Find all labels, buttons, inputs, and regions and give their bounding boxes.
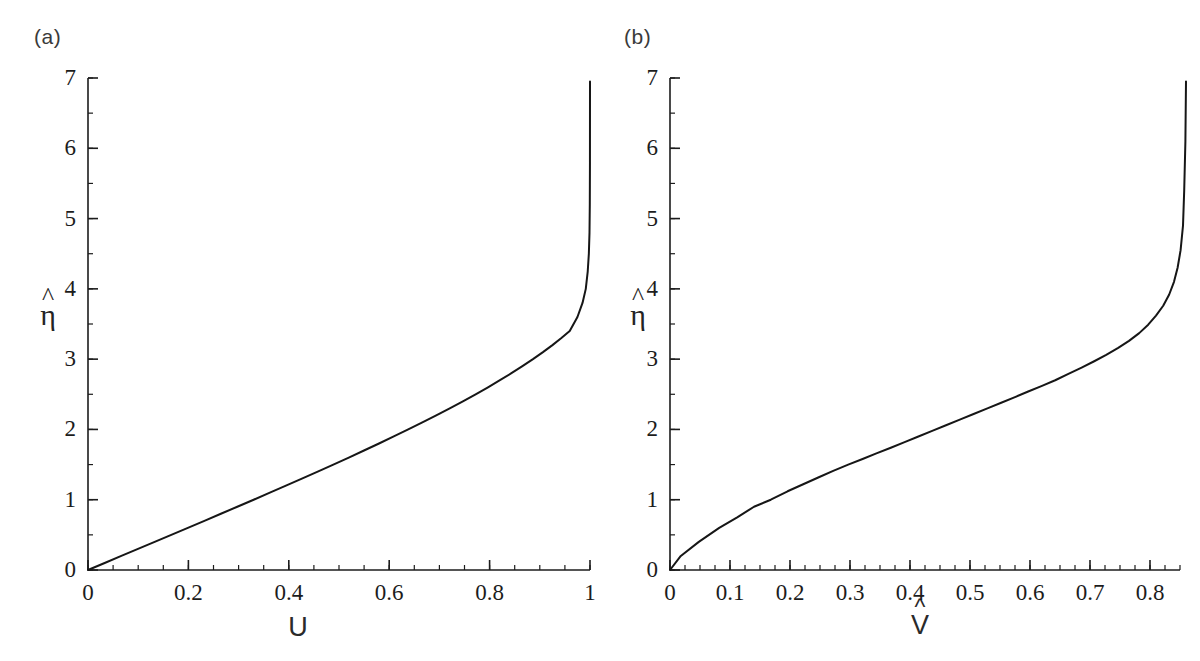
panel-b-x-tick-label: 0: [664, 580, 676, 606]
panel-b-y-tick-label: 1: [624, 487, 658, 513]
panel-a-plot: [0, 0, 610, 661]
panel-b-x-tick-label: 0.6: [1016, 580, 1045, 606]
panel-b-plot: [610, 0, 1200, 661]
panel-b-y-tick-label: 7: [624, 65, 658, 91]
panel-b-y-tick-label: 2: [624, 416, 658, 442]
panel-b-y-tick-label: 6: [624, 135, 658, 161]
panel-b-y-tick-label: 3: [624, 346, 658, 372]
panel-b-y-tick-label: 5: [624, 206, 658, 232]
figure-container: (a) ^ η U 00.20.40.60.8101234567 (b) ^ η…: [0, 0, 1200, 661]
panel-b: (b) ^ η ^ V 00.10.20.30.40.50.60.70.8012…: [610, 0, 1200, 661]
panel-b-x-tick-label: 0.5: [956, 580, 985, 606]
panel-a-y-tick-label: 5: [42, 206, 76, 232]
panel-b-x-tick-label: 0.2: [776, 580, 805, 606]
panel-a-y-tick-label: 1: [42, 487, 76, 513]
panel-a-x-tick-label: 0.2: [174, 580, 203, 606]
panel-b-x-tick-label: 0.4: [896, 580, 925, 606]
panel-a: (a) ^ η U 00.20.40.60.8101234567: [0, 0, 610, 661]
panel-a-x-tick-label: 1: [584, 580, 596, 606]
panel-a-y-tick-label: 6: [42, 135, 76, 161]
panel-a-y-tick-label: 7: [42, 65, 76, 91]
panel-a-y-tick-label: 2: [42, 416, 76, 442]
panel-a-x-tick-label: 0: [82, 580, 94, 606]
panel-a-y-tick-label: 0: [42, 557, 76, 583]
panel-a-x-tick-label: 0.6: [375, 580, 404, 606]
panel-b-x-tick-label: 0.7: [1076, 580, 1105, 606]
panel-a-x-tick-label: 0.8: [475, 580, 504, 606]
panel-b-x-tick-label: 0.1: [716, 580, 745, 606]
panel-b-x-tick-label: 0.8: [1136, 580, 1165, 606]
panel-b-y-tick-label: 4: [624, 276, 658, 302]
panel-b-y-tick-label: 0: [624, 557, 658, 583]
panel-a-y-tick-label: 4: [42, 276, 76, 302]
panel-a-y-tick-label: 3: [42, 346, 76, 372]
panel-b-x-tick-label: 0.3: [836, 580, 865, 606]
panel-a-x-tick-label: 0.4: [274, 580, 303, 606]
